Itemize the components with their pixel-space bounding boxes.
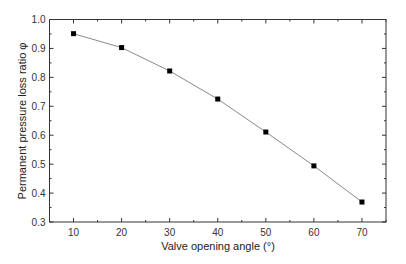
y-axis-ticks: 0.30.40.50.60.70.80.91.0 xyxy=(32,14,386,228)
data-point-marker xyxy=(263,130,268,135)
y-tick-label: 0.8 xyxy=(32,72,46,83)
x-axis-title: Valve opening angle (°) xyxy=(161,240,275,252)
y-tick-label: 0.3 xyxy=(32,217,46,228)
data-point-marker xyxy=(71,31,76,36)
y-tick-label: 0.4 xyxy=(32,188,46,199)
plot-frame xyxy=(50,20,387,223)
y-tick-label: 0.7 xyxy=(32,101,46,112)
data-point-marker xyxy=(311,163,316,168)
x-tick-label: 40 xyxy=(212,227,224,238)
plot-border xyxy=(50,20,387,223)
data-point-marker xyxy=(359,200,364,205)
x-axis-ticks: 10203040506070 xyxy=(50,20,387,239)
y-axis-title: Permanent pressure loss ratio φ xyxy=(16,43,28,200)
x-tick-label: 10 xyxy=(68,227,80,238)
x-tick-label: 20 xyxy=(116,227,128,238)
x-tick-label: 70 xyxy=(356,227,368,238)
y-tick-label: 1.0 xyxy=(32,14,46,25)
y-tick-label: 0.5 xyxy=(32,159,46,170)
y-tick-label: 0.6 xyxy=(32,130,46,141)
x-tick-label: 50 xyxy=(260,227,272,238)
data-point-marker xyxy=(215,97,220,102)
data-point-marker xyxy=(119,45,124,50)
data-point-marker xyxy=(167,68,172,73)
line-chart: 10203040506070 0.30.40.50.60.70.80.91.0 … xyxy=(0,0,406,264)
x-tick-label: 30 xyxy=(164,227,176,238)
x-tick-label: 60 xyxy=(308,227,320,238)
series-line xyxy=(74,34,363,202)
y-tick-label: 0.9 xyxy=(32,43,46,54)
data-series xyxy=(71,31,364,204)
